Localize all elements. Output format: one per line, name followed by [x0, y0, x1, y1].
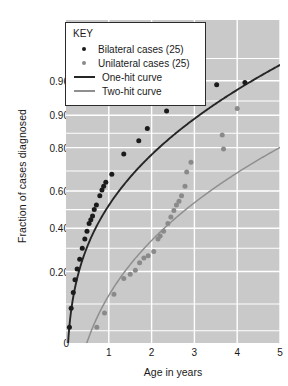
legend-title: KEY — [73, 28, 205, 40]
bilateral-data-point — [80, 246, 85, 251]
bilateral-data-point — [242, 80, 247, 85]
legend-item-2: One-hit curve — [73, 70, 205, 84]
unilateral-data-point — [121, 276, 126, 281]
bilateral-data-point — [121, 152, 126, 157]
bilateral-data-point — [97, 193, 102, 198]
unilateral-data-point — [141, 256, 146, 261]
bilateral-data-point — [103, 180, 108, 185]
filled-circle-dark-icon-glyph — [82, 47, 86, 51]
bilateral-data-point — [164, 108, 169, 113]
line-segment-dark-icon-glyph — [74, 76, 95, 78]
unilateral-data-point — [176, 199, 181, 204]
legend-item-label: Bilateral cases (25) — [95, 44, 184, 55]
x-tick-5: 5 — [277, 347, 283, 358]
unilateral-data-point — [146, 253, 151, 258]
y-axis-label: Fraction of cases diagnosed — [16, 66, 28, 286]
unilateral-data-point — [151, 249, 156, 254]
x-axis-label: Age in years — [66, 366, 280, 378]
line-segment-gray-icon — [73, 90, 95, 92]
bilateral-data-point — [92, 207, 97, 212]
unilateral-data-point — [235, 106, 240, 111]
x-tick-4: 4 — [234, 347, 240, 358]
unilateral-data-point — [158, 234, 163, 239]
bilateral-data-point — [94, 203, 99, 208]
unilateral-data-point — [168, 215, 173, 220]
legend-item-label: One-hit curve — [95, 72, 162, 83]
unilateral-data-point — [182, 184, 187, 189]
chart-root: Fraction of cases diagnosed 1.000.960.90… — [0, 0, 288, 386]
legend-item-label: Unilateral cases (25) — [95, 58, 190, 69]
unilateral-data-point — [221, 146, 226, 151]
bilateral-data-point — [84, 229, 89, 234]
filled-circle-gray-icon-glyph — [82, 61, 86, 65]
unilateral-data-point — [133, 268, 138, 273]
unilateral-data-point — [184, 170, 189, 175]
line-segment-gray-icon-glyph — [74, 90, 95, 92]
bilateral-data-point — [136, 138, 141, 143]
legend-item-1: Unilateral cases (25) — [73, 56, 205, 70]
line-segment-dark-icon — [73, 76, 95, 78]
bilateral-data-point — [82, 236, 87, 241]
unilateral-data-point — [94, 325, 99, 330]
x-tick-2: 2 — [149, 347, 155, 358]
unilateral-data-point — [188, 160, 193, 165]
unilateral-data-point — [220, 132, 225, 137]
legend-item-label: Two-hit curve — [95, 86, 161, 97]
bilateral-data-point — [75, 266, 80, 271]
filled-circle-dark-icon — [73, 47, 95, 51]
unilateral-data-point — [128, 272, 133, 277]
unilateral-data-point — [102, 311, 107, 316]
unilateral-data-point — [165, 221, 170, 226]
x-tick-3: 3 — [192, 347, 198, 358]
filled-circle-gray-icon — [73, 61, 95, 65]
bilateral-data-point — [77, 257, 82, 262]
bilateral-data-point — [214, 82, 219, 87]
unilateral-data-point — [161, 229, 166, 234]
bilateral-data-point — [71, 290, 76, 295]
legend-item-3: Two-hit curve — [73, 84, 205, 98]
bilateral-data-point — [90, 214, 95, 219]
legend-box: KEY Bilateral cases (25)Unilateral cases… — [65, 22, 206, 106]
unilateral-data-point — [171, 208, 176, 213]
unilateral-data-point — [111, 292, 116, 297]
one-hit-curve — [67, 65, 280, 343]
legend-item-0: Bilateral cases (25) — [73, 42, 205, 56]
bilateral-data-point — [72, 277, 77, 282]
bilateral-data-point — [67, 325, 72, 330]
unilateral-data-point — [137, 260, 142, 265]
legend-items: Bilateral cases (25)Unilateral cases (25… — [73, 42, 205, 98]
unilateral-data-point — [179, 193, 184, 198]
bilateral-data-point — [109, 172, 114, 177]
bilateral-data-point — [145, 126, 150, 131]
bilateral-data-point — [69, 306, 74, 311]
x-tick-1: 1 — [106, 347, 112, 358]
